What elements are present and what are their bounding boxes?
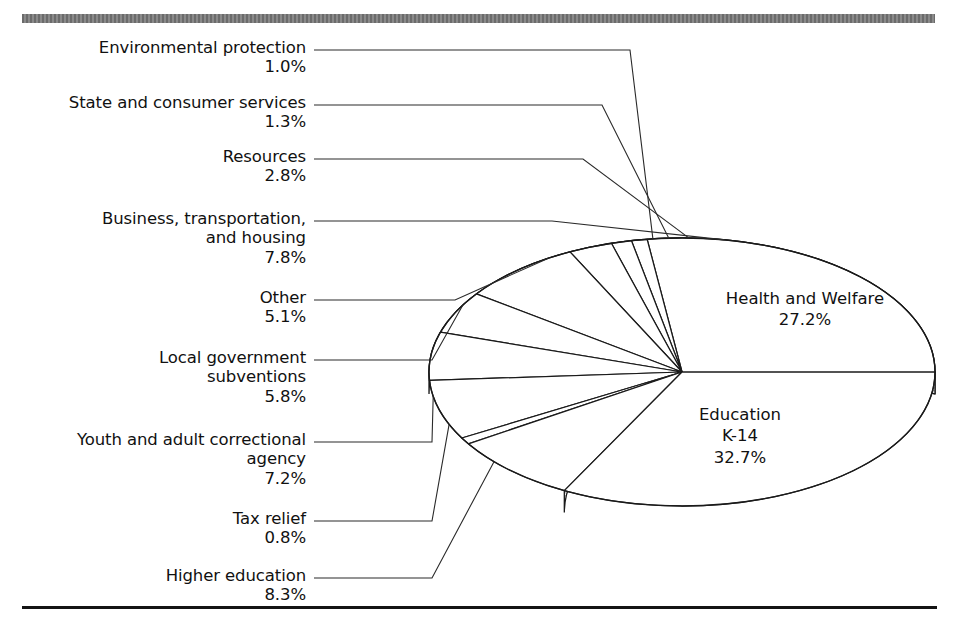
- callout-tax-relief: Tax relief0.8%: [6, 509, 306, 548]
- leader-line-state-and-consumer-services: [314, 105, 669, 238]
- callout-value-tax-relief: 0.8%: [6, 528, 306, 547]
- callout-label-business-transportation-and-housing: Business, transportation, and housing: [6, 209, 306, 248]
- callout-value-environmental-protection: 1.0%: [6, 57, 306, 76]
- leader-line-tax-relief: [314, 424, 449, 521]
- callout-value-local-government-subventions: 5.8%: [6, 387, 306, 406]
- pie-label-health-and-welfare: Health and Welfare 27.2%: [700, 288, 910, 331]
- pie-label-health-and-welfare-line2: 27.2%: [700, 309, 910, 330]
- callout-label-state-and-consumer-services: State and consumer services: [6, 93, 306, 112]
- callout-higher-education: Higher education8.3%: [6, 566, 306, 605]
- pie-label-education-k14-line3: 32.7%: [650, 447, 830, 468]
- callout-resources: Resources2.8%: [6, 147, 306, 186]
- callout-other: Other5.1%: [6, 288, 306, 327]
- callout-label-tax-relief: Tax relief: [6, 509, 306, 528]
- callout-value-other: 5.1%: [6, 307, 306, 326]
- pie-label-education-k14-line1: Education: [650, 404, 830, 425]
- callout-environmental-protection: Environmental protection1.0%: [6, 38, 306, 77]
- callout-label-resources: Resources: [6, 147, 306, 166]
- callout-label-other: Other: [6, 288, 306, 307]
- pie-label-education-k14-line2: K-14: [650, 425, 830, 446]
- callout-value-state-and-consumer-services: 1.3%: [6, 112, 306, 131]
- callout-value-business-transportation-and-housing: 7.8%: [6, 248, 306, 267]
- pie-label-education-k14: Education K-14 32.7%: [650, 404, 830, 468]
- leader-line-youth-and-adult-correctional-agency: [314, 396, 433, 442]
- leader-line-higher-education: [314, 462, 494, 578]
- callout-state-and-consumer-services: State and consumer services1.3%: [6, 93, 306, 132]
- callout-label-youth-and-adult-correctional-agency: Youth and adult correctional agency: [6, 430, 306, 469]
- callout-value-youth-and-adult-correctional-agency: 7.2%: [6, 469, 306, 488]
- leader-line-resources: [314, 159, 689, 238]
- pie-label-health-and-welfare-line1: Health and Welfare: [700, 288, 910, 309]
- callout-value-resources: 2.8%: [6, 166, 306, 185]
- callout-local-government-subventions: Local government subventions5.8%: [6, 348, 306, 406]
- callout-business-transportation-and-housing: Business, transportation, and housing7.8…: [6, 209, 306, 267]
- callout-value-higher-education: 8.3%: [6, 585, 306, 604]
- leader-line-business-transportation-and-housing: [314, 221, 725, 240]
- callout-label-higher-education: Higher education: [6, 566, 306, 585]
- callout-label-environmental-protection: Environmental protection: [6, 38, 306, 57]
- callout-youth-and-adult-correctional-agency: Youth and adult correctional agency7.2%: [6, 430, 306, 488]
- callout-label-local-government-subventions: Local government subventions: [6, 348, 306, 387]
- chart-figure: Health and Welfare 27.2% Education K-14 …: [0, 0, 961, 630]
- leader-line-environmental-protection: [314, 50, 653, 239]
